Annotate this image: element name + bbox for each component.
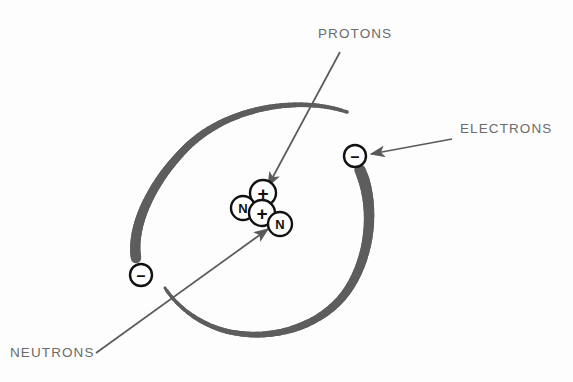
proton-center-glyph: +: [256, 203, 267, 224]
electron-right: –: [344, 145, 366, 167]
neutron-right-glyph: N: [275, 217, 284, 232]
orbit-arc-upper-left: [135, 105, 347, 258]
orbit-segment: [135, 252, 136, 258]
neutrons-label: NEUTRONS: [10, 345, 95, 360]
protons-label: PROTONS: [318, 26, 392, 41]
neutron-left-glyph: N: [238, 201, 247, 216]
electrons-leader-line: [371, 139, 452, 154]
electron-left: –: [130, 264, 152, 286]
electron-right-glyph: –: [351, 148, 360, 165]
atom-diagram: +N+N –– PROTONS ELECTRONS NEUTRONS: [0, 0, 573, 382]
nucleus: +N+N: [231, 180, 292, 236]
electron-left-glyph: –: [137, 267, 146, 284]
orbit-segment: [165, 288, 169, 294]
electrons-label: ELECTRONS: [460, 121, 552, 136]
neutron-right: N: [268, 212, 292, 236]
diagram-canvas: +N+N –– PROTONS ELECTRONS NEUTRONS: [0, 0, 573, 382]
protons-leader-line: [268, 52, 340, 186]
